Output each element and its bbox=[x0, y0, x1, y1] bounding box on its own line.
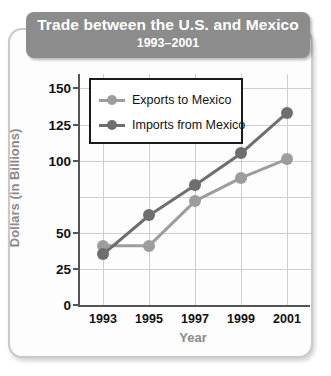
y-tick-mark bbox=[73, 304, 80, 306]
x-tick-label: 1999 bbox=[227, 312, 255, 326]
x-tick-label: 2001 bbox=[273, 312, 301, 326]
chart-title-banner: Trade between the U.S. and Mexico 1993–2… bbox=[26, 12, 310, 58]
y-tick-mark bbox=[73, 268, 80, 270]
y-tick-mark bbox=[73, 160, 80, 162]
legend-marker-imports-icon bbox=[99, 119, 125, 131]
x-tick-label: 1993 bbox=[89, 312, 117, 326]
legend-item-exports: Exports to Mexico bbox=[99, 87, 241, 112]
y-tick-mark bbox=[73, 232, 80, 234]
chart-subtitle: 1993–2001 bbox=[26, 35, 310, 51]
legend-marker-exports-icon bbox=[99, 94, 125, 106]
x-axis-title: Year bbox=[179, 330, 206, 345]
chart-title: Trade between the U.S. and Mexico bbox=[26, 15, 310, 35]
y-tick-label: 150 bbox=[48, 81, 71, 96]
chart-legend: Exports to Mexico Imports from Mexico bbox=[89, 78, 243, 144]
x-tick-label: 1997 bbox=[181, 312, 209, 326]
legend-item-imports: Imports from Mexico bbox=[99, 112, 241, 137]
legend-label-exports: Exports to Mexico bbox=[132, 93, 231, 107]
y-tick-label: 50 bbox=[56, 225, 71, 240]
y-tick-label: 125 bbox=[48, 117, 71, 132]
y-tick-mark bbox=[73, 87, 80, 89]
legend-label-imports: Imports from Mexico bbox=[132, 118, 245, 132]
y-tick-label: 0 bbox=[63, 298, 71, 313]
y-tick-label: 100 bbox=[48, 153, 71, 168]
y-tick-mark bbox=[73, 124, 80, 126]
x-tick-label: 1995 bbox=[135, 312, 163, 326]
y-axis-title: Dollars (in Billions) bbox=[7, 129, 22, 247]
y-tick-label: 25 bbox=[56, 261, 71, 276]
